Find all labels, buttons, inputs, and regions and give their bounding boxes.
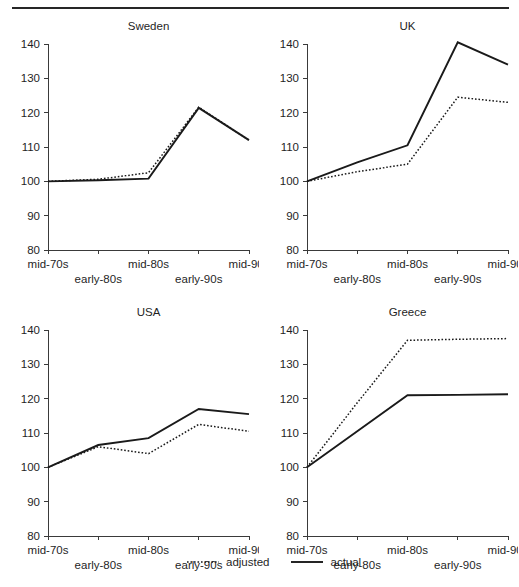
y-tick-label: 110 [22, 141, 40, 153]
y-tick-label: 100 [280, 175, 299, 187]
y-tick-label: 110 [281, 141, 299, 153]
y-tick-label: 80 [286, 244, 299, 256]
chart-title: Greece [389, 306, 427, 318]
x-tick-label: mid-70s [28, 258, 69, 270]
y-tick-label: 130 [280, 72, 299, 84]
x-tick-label: mid-80s [128, 258, 169, 270]
y-tick-label: 80 [27, 530, 40, 542]
series-line-adjusted [48, 107, 249, 181]
y-tick-label: 120 [21, 107, 40, 119]
legend-item-adjusted: adjusted [186, 556, 269, 568]
y-tick-label: 120 [280, 107, 299, 119]
y-tick-label: 120 [21, 393, 40, 405]
series-line-actual [307, 394, 508, 467]
y-tick-label: 90 [27, 210, 40, 222]
x-tick-label: mid-70s [287, 544, 328, 556]
x-tick-label: mid-90s [488, 258, 518, 270]
x-tick-label: mid-80s [387, 258, 428, 270]
series-line-actual [307, 42, 508, 181]
x-tick-label: mid-90s [229, 258, 259, 270]
y-tick-label: 130 [280, 358, 299, 370]
x-tick-label: early-90s [175, 273, 223, 285]
x-tick-label: mid-70s [28, 544, 69, 556]
legend-swatch-dotted [186, 557, 220, 567]
chart-panel-uk: UK8090100110120130140mid-70searly-80smid… [259, 12, 518, 290]
y-tick-label: 140 [21, 324, 40, 336]
x-tick-label: early-80s [75, 273, 123, 285]
figure-legend: adjusted actual [0, 556, 519, 582]
y-tick-label: 140 [280, 38, 299, 50]
x-tick-label: early-80s [334, 273, 382, 285]
x-tick-label: early-90s [434, 273, 482, 285]
legend-row: adjusted actual [186, 556, 375, 568]
chart-panel-sweden: Sweden8090100110120130140mid-70searly-80… [0, 12, 259, 290]
y-tick-label: 120 [280, 393, 299, 405]
chart-title: UK [400, 20, 416, 32]
y-tick-label: 90 [286, 496, 299, 508]
y-tick-label: 130 [21, 358, 40, 370]
y-tick-label: 140 [280, 324, 299, 336]
y-tick-label: 90 [286, 210, 299, 222]
y-tick-label: 100 [21, 461, 40, 473]
y-tick-label: 80 [27, 244, 40, 256]
y-tick-label: 100 [280, 461, 299, 473]
y-tick-label: 90 [27, 496, 40, 508]
series-line-actual [48, 108, 249, 181]
header-rule [12, 7, 509, 9]
series-line-adjusted [307, 339, 508, 468]
y-tick-label: 130 [21, 72, 40, 84]
x-tick-label: mid-90s [229, 544, 259, 556]
chart-panel-greece: Greece8090100110120130140mid-70searly-80… [259, 298, 518, 576]
x-tick-label: mid-80s [128, 544, 169, 556]
y-tick-label: 140 [21, 38, 40, 50]
x-tick-label: mid-80s [387, 544, 428, 556]
series-line-adjusted [307, 97, 508, 181]
x-tick-label: mid-70s [287, 258, 328, 270]
legend-swatch-solid [290, 557, 324, 567]
legend-label-actual: actual [330, 556, 361, 568]
series-line-adjusted [48, 424, 249, 467]
x-tick-label: mid-90s [488, 544, 518, 556]
figure-small-multiples-line-charts: Sweden8090100110120130140mid-70searly-80… [0, 0, 519, 587]
legend-item-actual: actual [290, 556, 361, 568]
chart-panel-usa: USA8090100110120130140mid-70searly-80smi… [0, 298, 259, 576]
chart-title: USA [137, 306, 161, 318]
chart-title: Sweden [128, 20, 170, 32]
y-tick-label: 110 [22, 427, 40, 439]
series-line-actual [48, 409, 249, 467]
y-tick-label: 80 [286, 530, 299, 542]
y-tick-label: 100 [21, 175, 40, 187]
y-tick-label: 110 [281, 427, 299, 439]
legend-label-adjusted: adjusted [226, 556, 269, 568]
